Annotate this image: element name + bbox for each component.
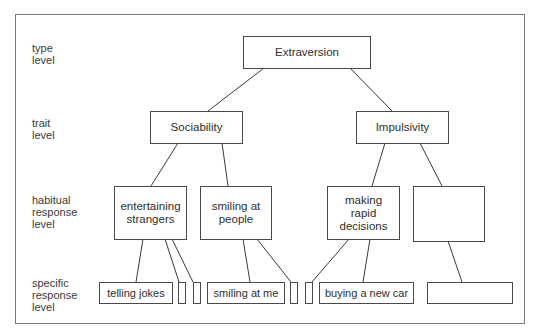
edge-sociability-entertaining	[151, 143, 178, 186]
node-label: decisions	[340, 220, 388, 233]
node-label: entertaining	[120, 200, 180, 213]
level-label-text: type	[32, 42, 55, 54]
node-smiling-at-people: smiling at people	[200, 186, 272, 240]
node-label: buying a new car	[325, 287, 408, 300]
node-label: Impulsivity	[376, 121, 430, 134]
level-label-trait: trait level	[32, 117, 55, 141]
edge-smiling-me	[243, 239, 250, 282]
level-label-habitual: habitual response level	[32, 194, 77, 230]
edge-entertaining-small2	[172, 239, 193, 282]
level-label-text: level	[32, 129, 55, 141]
node-habitual-empty	[413, 186, 485, 242]
node-making-rapid-decisions: making rapid decisions	[327, 186, 400, 240]
node-label: rapid	[351, 207, 377, 220]
node-specific-empty-3	[290, 282, 298, 304]
edge-sociability-smiling	[222, 143, 228, 186]
node-label: telling jokes	[107, 287, 164, 300]
level-label-text: response	[32, 206, 77, 218]
edge-entertaining-jokes	[136, 239, 143, 282]
node-entertaining-strangers: entertaining strangers	[114, 186, 187, 240]
level-label-text: level	[32, 218, 77, 230]
edge-entertaining-small1	[165, 239, 179, 282]
node-extraversion: Extraversion	[243, 36, 371, 69]
node-label: strangers	[127, 213, 175, 226]
node-label: smiling at me	[214, 287, 279, 300]
level-label-text: trait	[32, 117, 55, 129]
level-label-text: response	[32, 289, 77, 301]
node-smiling-at-me: smiling at me	[207, 282, 285, 304]
node-label: Extraversion	[275, 46, 339, 59]
node-telling-jokes: telling jokes	[99, 282, 173, 304]
node-specific-empty-5	[427, 282, 513, 304]
edge-impulsivity-rapid	[372, 143, 385, 186]
node-label: people	[219, 213, 254, 226]
level-label-text: specific	[32, 277, 77, 289]
node-buying-a-new-car: buying a new car	[319, 282, 414, 304]
level-label-text: level	[32, 54, 55, 66]
node-specific-empty-2	[193, 282, 201, 304]
edge-extraversion-impulsivity	[350, 68, 392, 111]
node-sociability: Sociability	[150, 111, 243, 144]
edge-extraversion-sociability	[208, 68, 264, 111]
level-label-type: type level	[32, 42, 55, 66]
edge-empty-empty	[448, 241, 462, 282]
node-impulsivity: Impulsivity	[356, 111, 449, 144]
edge-smiling-small	[257, 239, 291, 282]
node-label: making	[345, 194, 382, 207]
level-label-text: level	[32, 301, 77, 313]
level-label-specific: specific response level	[32, 277, 77, 313]
edge-rapid-car	[363, 239, 370, 282]
node-specific-empty-4	[305, 282, 313, 304]
node-specific-empty-1	[178, 282, 186, 304]
node-label: Sociability	[171, 121, 223, 134]
level-label-text: habitual	[32, 194, 77, 206]
edge-impulsivity-empty	[420, 143, 442, 186]
node-label: smiling at	[212, 200, 261, 213]
edge-rapid-small	[312, 239, 349, 282]
